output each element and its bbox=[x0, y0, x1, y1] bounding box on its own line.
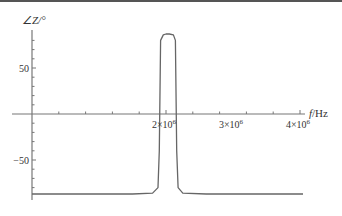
y-tick-label: 50 bbox=[19, 63, 29, 74]
phase-chart: ∠Z/° f/Hz 2×1063×1064×106 50−50 bbox=[0, 0, 342, 216]
y-axis-label: ∠Z/° bbox=[22, 14, 46, 26]
x-tick-label: 3×106 bbox=[219, 118, 244, 130]
x-tick-labels: 2×1063×1064×106 bbox=[152, 118, 311, 130]
x-axis-label: f/Hz bbox=[309, 107, 328, 119]
y-tick-label: −50 bbox=[13, 155, 29, 166]
x-tick-label: 4×106 bbox=[286, 118, 311, 130]
x-tick-label: 2×106 bbox=[152, 118, 177, 130]
